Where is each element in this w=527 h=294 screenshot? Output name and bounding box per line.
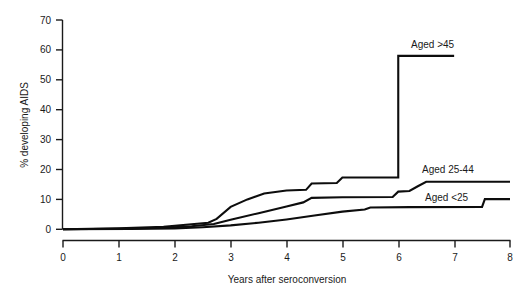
- y-tick-label: 50: [40, 74, 52, 85]
- y-tick-label: 40: [40, 104, 52, 115]
- curve-aged-over-45: [63, 56, 454, 229]
- chart-canvas: 70 60 50 40 30 20 10 0 % developing AIDS: [0, 0, 527, 294]
- y-tick-label: 70: [40, 15, 52, 26]
- x-tick-label: 2: [172, 252, 178, 263]
- series-label-aged-under-25: Aged <25: [425, 192, 469, 203]
- x-tick-label: 1: [116, 252, 122, 263]
- x-tick-label: 4: [284, 252, 290, 263]
- x-tick-label: 6: [396, 252, 402, 263]
- y-axis-ticks: [56, 20, 63, 229]
- series-group: [63, 56, 510, 229]
- x-tick-label: 0: [60, 252, 66, 263]
- x-tick-label: 7: [452, 252, 458, 263]
- curve-aged-under-25: [63, 199, 510, 229]
- series-annotations: Aged >45 Aged 25-44 Aged <25: [411, 39, 474, 203]
- x-axis-title: Years after seroconversion: [228, 274, 347, 285]
- y-axis-tick-labels: 70 60 50 40 30 20 10 0: [40, 15, 52, 235]
- x-tick-label: 3: [228, 252, 234, 263]
- y-tick-label: 30: [40, 134, 52, 145]
- y-tick-label: 10: [40, 194, 52, 205]
- curve-aged-25-44: [63, 182, 510, 230]
- y-tick-label: 0: [45, 224, 51, 235]
- x-axis-ticks: [63, 241, 510, 248]
- series-label-aged-over-45: Aged >45: [411, 39, 455, 50]
- chart-figure: 70 60 50 40 30 20 10 0 % developing AIDS: [0, 0, 527, 294]
- y-axis-title: % developing AIDS: [19, 82, 30, 168]
- y-tick-label: 60: [40, 44, 52, 55]
- y-tick-label: 20: [40, 164, 52, 175]
- series-label-aged-25-44: Aged 25-44: [422, 164, 474, 175]
- x-axis-tick-labels: 0 1 2 3 4 5 6 7 8: [60, 252, 513, 263]
- x-tick-label: 8: [507, 252, 513, 263]
- x-tick-label: 5: [340, 252, 346, 263]
